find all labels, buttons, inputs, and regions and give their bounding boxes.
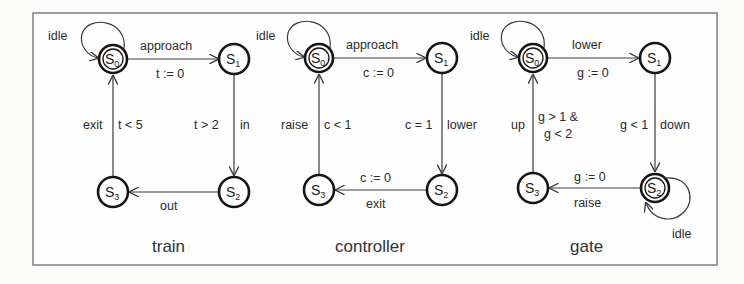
state-gate-s0: S0 (519, 44, 547, 72)
label-train-exit: exit (83, 118, 103, 132)
label-controller-c-reset-2: c := 0 (360, 171, 391, 185)
label-train-out: out (160, 199, 178, 213)
label-gate-down: down (660, 118, 690, 132)
label-train-t-reset: t := 0 (156, 67, 184, 81)
label-gate-raise: raise (574, 196, 601, 210)
state-train-s1: S1 (219, 44, 249, 74)
state-controller-s0: S0 (305, 44, 333, 72)
label-gate-lower: lower (572, 38, 602, 52)
state-gate-s2: S2 (641, 174, 669, 202)
timed-automata-diagram: S0 S1 S2 S3 idle approach t := 0 t > 2 i… (0, 0, 744, 284)
label-train-approach: approach (140, 39, 192, 53)
label-controller-c-reset: c := 0 (363, 66, 394, 80)
title-gate: gate (570, 237, 603, 256)
state-train-s0: S0 (99, 45, 127, 73)
label-controller-approach: approach (346, 38, 398, 52)
label-gate-g-reset: g := 0 (577, 66, 609, 80)
label-train-in: in (240, 118, 250, 132)
label-train-t-gt-2: t > 2 (194, 118, 219, 132)
state-controller-s3: S3 (304, 175, 334, 205)
label-controller-idle: idle (256, 29, 276, 43)
label-gate-idle-s0: idle (470, 29, 490, 43)
title-controller: controller (335, 237, 405, 256)
label-controller-lower: lower (447, 118, 477, 132)
label-gate-g-reset-2: g := 0 (574, 170, 606, 184)
label-gate-idle-s2: idle (672, 227, 692, 241)
label-gate-g-lt-2: g < 2 (544, 127, 572, 141)
title-train: train (152, 237, 185, 256)
label-controller-raise: raise (281, 118, 308, 132)
state-train-s3: S3 (98, 177, 128, 207)
label-gate-g-gt-1: g > 1 & (538, 110, 579, 124)
label-gate-g-lt-1: g < 1 (620, 118, 648, 132)
state-train-s2: S2 (219, 177, 249, 207)
label-controller-exit: exit (366, 197, 386, 211)
label-controller-c-eq-1: c = 1 (405, 118, 432, 132)
label-controller-c-lt-1: c < 1 (324, 118, 351, 132)
label-gate-up: up (511, 118, 525, 132)
state-gate-s1: S1 (640, 43, 670, 73)
state-controller-s1: S1 (427, 43, 457, 73)
label-train-t-lt-5: t < 5 (118, 118, 143, 132)
state-controller-s2: S2 (427, 175, 457, 205)
label-train-idle: idle (48, 29, 68, 43)
state-gate-s3: S3 (518, 173, 548, 203)
